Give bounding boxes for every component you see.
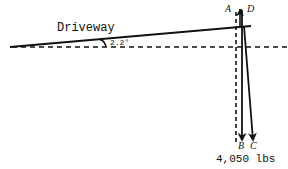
driveway-label: Driveway bbox=[57, 22, 115, 34]
weight-label: 4,050 lbs bbox=[216, 154, 275, 165]
point-label-a: A bbox=[225, 4, 231, 14]
point-label-c: C bbox=[250, 141, 257, 151]
diagram-canvas bbox=[0, 0, 288, 169]
vector-c-arrow bbox=[244, 26, 253, 140]
angle-label: 2.2° bbox=[110, 39, 129, 47]
point-label-b: B bbox=[238, 141, 244, 151]
driveway-incline-line bbox=[10, 26, 251, 47]
force-diagram: Driveway 2.2° A D B C 4,050 lbs bbox=[0, 0, 288, 169]
point-label-d: D bbox=[247, 4, 254, 14]
angle-arc bbox=[100, 40, 106, 48]
